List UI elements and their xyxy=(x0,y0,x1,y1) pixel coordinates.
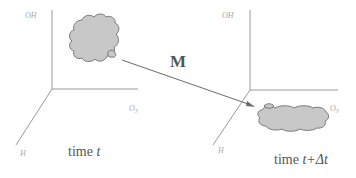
left-horizontal-axis-label: O3 xyxy=(129,104,138,114)
time-label-right: time t+Δt xyxy=(274,152,329,167)
left-panel: OH O3 H xyxy=(16,10,138,158)
left-vertical-axis-label: OH xyxy=(25,11,38,20)
arrow-line xyxy=(122,60,251,105)
right-horizontal-axis-label: O3 xyxy=(330,104,339,114)
left-depth-axis-label: H xyxy=(19,149,27,158)
left-depth-axis xyxy=(16,89,52,145)
arrow-head-icon xyxy=(246,101,255,107)
cloud-bump-t xyxy=(108,50,116,57)
right-panel: OH O3 H xyxy=(213,10,339,155)
transform-label: M xyxy=(170,52,186,71)
right-vertical-axis-label: OH xyxy=(222,11,235,20)
right-depth-axis-label: H xyxy=(217,146,225,155)
transform-arrow: M xyxy=(122,52,255,107)
diagram-canvas: OH O3 H M OH O3 H time t time t+Δt xyxy=(0,0,356,178)
cloud-bump-t-dt xyxy=(264,104,274,109)
cloud-shape-t-dt xyxy=(258,106,329,132)
time-label-left: time t xyxy=(68,144,101,159)
